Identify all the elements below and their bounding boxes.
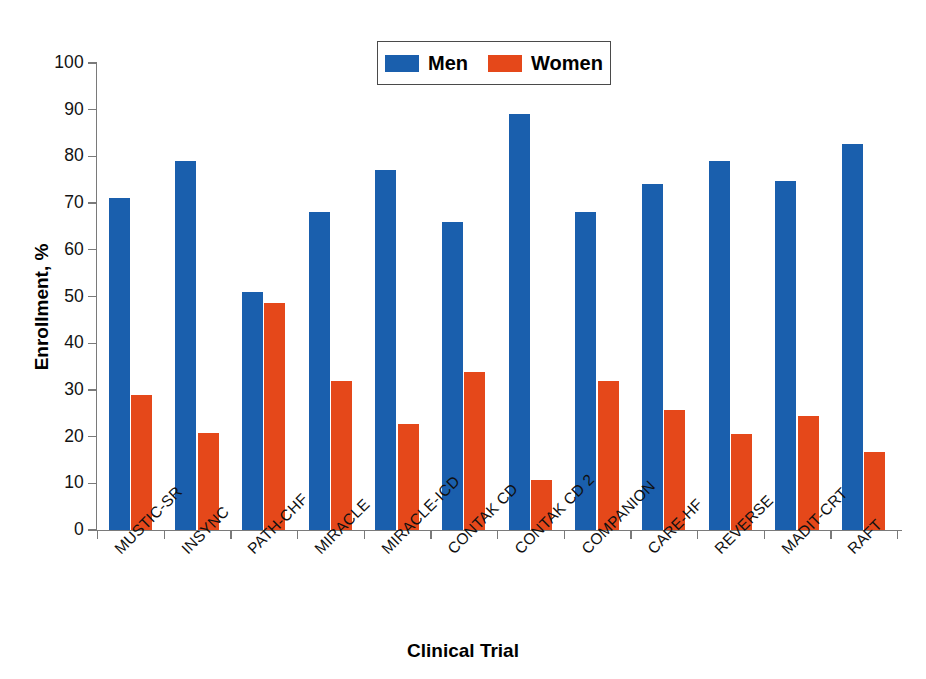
legend-item-women: Women	[488, 52, 603, 75]
y-tick	[88, 62, 97, 63]
legend-label-women: Women	[531, 52, 603, 75]
y-tick-label: 0	[40, 519, 84, 540]
bar-men	[775, 181, 796, 530]
bar-chart: 0102030405060708090100 MUSTIC-SRINSYNCPA…	[0, 0, 926, 679]
x-tick	[164, 530, 165, 539]
x-tick	[830, 530, 831, 539]
y-tick-label: 90	[40, 99, 84, 120]
bar-men	[109, 198, 130, 530]
x-tick	[97, 530, 98, 539]
y-axis-title: Enrollment, %	[31, 187, 53, 427]
x-tick	[364, 530, 365, 539]
y-tick	[88, 296, 97, 297]
x-tick	[430, 530, 431, 539]
legend-swatch-men	[385, 55, 419, 72]
y-tick	[88, 109, 97, 110]
x-tick	[230, 530, 231, 539]
y-tick-label: 20	[40, 426, 84, 447]
y-tick-label: 100	[40, 52, 84, 73]
x-tick	[564, 530, 565, 539]
y-tick	[88, 529, 97, 530]
x-tick	[764, 530, 765, 539]
y-tick	[88, 202, 97, 203]
legend: Men Women	[377, 41, 611, 85]
bars-container	[97, 63, 897, 530]
bar-men	[309, 212, 330, 530]
y-tick-label: 10	[40, 472, 84, 493]
legend-label-men: Men	[428, 52, 468, 75]
x-tick	[297, 530, 298, 539]
y-tick-label: 80	[40, 145, 84, 166]
bar-women	[264, 303, 285, 530]
y-tick	[88, 483, 97, 484]
x-tick	[697, 530, 698, 539]
y-tick	[88, 249, 97, 250]
y-tick	[88, 343, 97, 344]
x-tick	[497, 530, 498, 539]
bar-men	[375, 170, 396, 530]
x-tick	[897, 530, 898, 539]
bar-men	[842, 144, 863, 530]
y-tick	[88, 389, 97, 390]
bar-men	[709, 161, 730, 530]
bar-men	[242, 292, 263, 530]
bar-men	[175, 161, 196, 530]
y-tick	[88, 156, 97, 157]
x-tick	[630, 530, 631, 539]
bar-men	[509, 114, 530, 530]
legend-swatch-women	[488, 55, 522, 72]
legend-item-men: Men	[385, 52, 468, 75]
x-axis-title: Clinical Trial	[0, 640, 926, 662]
y-tick	[88, 436, 97, 437]
